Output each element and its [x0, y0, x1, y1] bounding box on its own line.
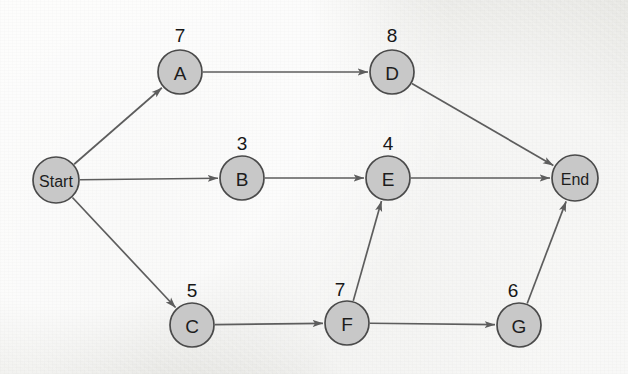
graph-node-e[interactable]: E [366, 156, 410, 200]
graph-node-b[interactable]: B [220, 156, 264, 200]
graph-node-g[interactable]: G [497, 303, 541, 347]
graph-node-a[interactable]: A [158, 50, 202, 94]
graph-edge-f-g [370, 323, 495, 324]
node-weight-d: 8 [387, 25, 398, 46]
graph-node-start[interactable]: Start [33, 157, 79, 203]
graph-edge-start-a [74, 88, 162, 164]
node-label-start: Start [39, 173, 73, 190]
graph-edge-d-end [412, 84, 553, 166]
graph-node-end[interactable]: End [552, 155, 598, 201]
graph-node-f[interactable]: F [325, 301, 369, 345]
node-weight-b: 3 [237, 133, 248, 154]
nodes-layer: StartABCDEFGEnd [33, 50, 598, 347]
graph-svg: StartABCDEFGEnd 7358476 [0, 0, 628, 374]
graph-node-c[interactable]: C [170, 303, 214, 347]
node-weight-g: 6 [508, 280, 519, 301]
graph-diagram-canvas: StartABCDEFGEnd 7358476 [0, 0, 628, 374]
node-weight-e: 4 [383, 133, 394, 154]
graph-edge-f-e [353, 201, 381, 301]
node-label-c: C [185, 316, 199, 337]
graph-edge-start-c [72, 198, 175, 308]
node-label-g: G [512, 316, 527, 337]
node-weight-a: 7 [175, 25, 186, 46]
graph-edge-g-end [527, 201, 566, 303]
node-label-a: A [174, 63, 187, 84]
node-label-d: D [385, 63, 399, 84]
node-weight-c: 5 [187, 280, 198, 301]
graph-edge-start-b [80, 178, 218, 179]
node-weight-f: 7 [335, 279, 346, 300]
edges-layer [72, 72, 566, 325]
graph-node-d[interactable]: D [370, 50, 414, 94]
node-label-e: E [382, 169, 395, 190]
graph-edge-c-f [215, 323, 323, 324]
node-label-b: B [236, 169, 249, 190]
node-label-f: F [341, 314, 353, 335]
node-label-end: End [561, 171, 589, 188]
